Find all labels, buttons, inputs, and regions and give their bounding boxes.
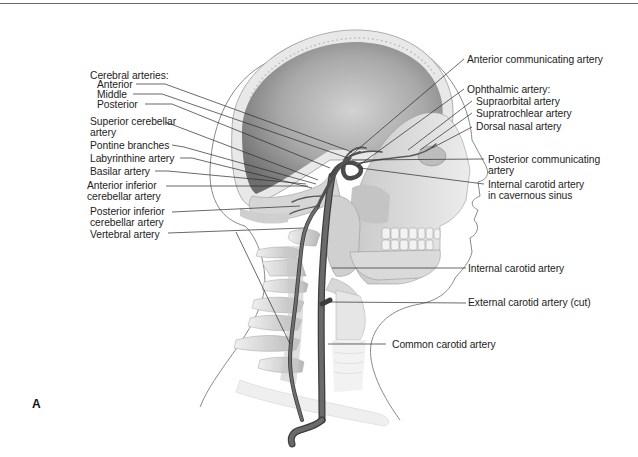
cervical-vertebrae — [234, 229, 320, 373]
label-vertebral-artery: Vertebral artery — [90, 229, 160, 240]
label-superior-cerebellar-artery-line1: Superior cerebellar — [90, 116, 176, 127]
label-posterior-inferior-cerebellar-artery-line1: Posterior inferior — [90, 206, 165, 217]
larynx-trachea — [326, 278, 366, 392]
panel-letter: A — [32, 397, 41, 411]
label-supratrochlear-artery: Supratrochlear artery — [476, 108, 572, 119]
label-ophthalmic-artery-heading: Ophthalmic artery: — [467, 84, 550, 95]
label-external-carotid-artery-cut: External carotid artery (cut) — [468, 297, 591, 308]
label-internal-carotid-cavernous-line2: in cavernous sinus — [488, 190, 572, 201]
label-posterior-inferior-cerebellar-artery-line2: cerebellar artery — [90, 217, 164, 228]
label-anterior-communicating-artery: Anterior communicating artery — [467, 54, 603, 65]
label-internal-carotid-artery: Internal carotid artery — [468, 263, 564, 274]
label-dorsal-nasal-artery: Dorsal nasal artery — [476, 121, 561, 132]
label-superior-cerebellar-artery-line2: artery — [90, 127, 116, 138]
clavicle — [236, 380, 389, 426]
label-posterior-communicating-artery-line1: Posterior communicating — [488, 154, 600, 165]
label-basilar-artery: Basilar artery — [90, 166, 150, 177]
label-pontine-branches: Pontine branches — [90, 140, 169, 151]
label-supraorbital-artery: Supraorbital artery — [476, 96, 560, 107]
label-common-carotid-artery: Common carotid artery — [392, 339, 496, 350]
label-posterior-cerebral-artery: Posterior — [97, 99, 138, 110]
label-internal-carotid-cavernous-line1: Internal carotid artery — [488, 179, 584, 190]
label-anterior-inferior-cerebellar-artery-line1: Anterior inferior — [87, 180, 157, 191]
label-posterior-communicating-artery-line2: artery — [488, 165, 514, 176]
label-labyrinthine-artery: Labyrinthine artery — [90, 153, 174, 164]
label-anterior-inferior-cerebellar-artery-line2: cerebellar artery — [87, 191, 161, 202]
